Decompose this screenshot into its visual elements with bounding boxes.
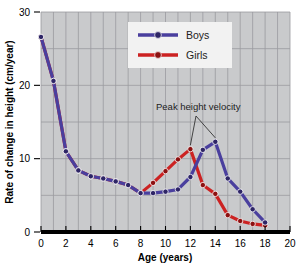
data-point-boys bbox=[150, 190, 155, 195]
data-point-girls bbox=[225, 212, 230, 217]
data-point-girls bbox=[200, 182, 205, 187]
x-tick-label: 8 bbox=[138, 238, 144, 249]
annotation-peak-height-velocity: Peak height velocity bbox=[156, 101, 241, 112]
data-point-boys bbox=[225, 176, 230, 181]
legend-background bbox=[128, 22, 232, 68]
data-point-girls bbox=[150, 180, 155, 185]
data-point-boys bbox=[88, 174, 93, 179]
data-point-boys bbox=[38, 34, 43, 39]
data-point-girls bbox=[163, 168, 168, 173]
chart-canvas: 024681012141618200102030 Boys Girls Peak… bbox=[0, 0, 302, 268]
data-point-boys bbox=[63, 149, 68, 154]
data-point-boys bbox=[238, 189, 243, 194]
data-point-boys bbox=[213, 139, 218, 144]
legend-swatch-marker-boys bbox=[155, 32, 162, 39]
data-point-boys bbox=[138, 190, 143, 195]
data-point-boys bbox=[101, 176, 106, 181]
x-tick-label: 12 bbox=[185, 238, 197, 249]
growth-velocity-chart: 024681012141618200102030 Boys Girls Peak… bbox=[0, 0, 302, 268]
data-point-boys bbox=[188, 174, 193, 179]
data-point-girls bbox=[213, 191, 218, 196]
data-point-girls bbox=[188, 146, 193, 151]
legend-label-boys: Boys bbox=[186, 29, 209, 41]
y-axis-title: Rate of change in height (cm/year) bbox=[4, 40, 15, 203]
legend-label-girls: Girls bbox=[186, 49, 208, 61]
x-tick-label: 4 bbox=[88, 238, 94, 249]
data-point-boys bbox=[113, 179, 118, 184]
data-point-boys bbox=[200, 147, 205, 152]
x-tick-label: 14 bbox=[210, 238, 222, 249]
data-point-girls bbox=[250, 221, 255, 226]
y-tick-label: 30 bbox=[19, 7, 31, 18]
x-tick-label: 6 bbox=[113, 238, 119, 249]
y-tick-label: 20 bbox=[19, 80, 31, 91]
data-point-boys bbox=[175, 187, 180, 192]
x-tick-label: 10 bbox=[160, 238, 172, 249]
x-tick-label: 18 bbox=[260, 238, 272, 249]
x-tick-label: 20 bbox=[284, 238, 296, 249]
data-point-boys bbox=[76, 168, 81, 173]
y-tick-label: 0 bbox=[24, 227, 30, 238]
data-point-boys bbox=[250, 207, 255, 212]
chart-legend: Boys Girls bbox=[128, 22, 232, 68]
data-point-girls bbox=[175, 157, 180, 162]
x-tick-label: 2 bbox=[63, 238, 69, 249]
data-point-boys bbox=[262, 220, 267, 225]
x-axis-title: Age (years) bbox=[138, 252, 192, 263]
x-tick-label: 0 bbox=[38, 238, 44, 249]
legend-swatch-marker-girls bbox=[155, 52, 162, 59]
x-tick-label: 16 bbox=[235, 238, 247, 249]
data-point-boys bbox=[51, 78, 56, 83]
data-point-boys bbox=[163, 189, 168, 194]
data-point-girls bbox=[238, 218, 243, 223]
y-tick-label: 10 bbox=[19, 153, 31, 164]
data-point-boys bbox=[125, 182, 130, 187]
